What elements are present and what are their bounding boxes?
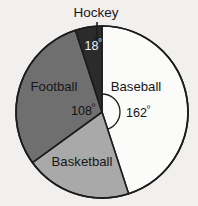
degree-symbol-icon: º: [92, 101, 95, 111]
slice-label-baseball: Baseball: [111, 79, 162, 94]
slice-label-football: Football: [31, 79, 78, 94]
angle-label-baseball: 162º: [126, 103, 150, 120]
pie-chart: Baseball162ºBasketballFootball108ºHockey…: [0, 0, 198, 206]
angle-label-football: 108º: [71, 101, 95, 118]
slice-label-hockey: Hockey: [73, 5, 118, 20]
pie-chart-canvas: Baseball162ºBasketballFootball108ºHockey…: [0, 0, 198, 206]
pie-slices-group: [16, 26, 188, 198]
slice-label-basketball: Basketball: [52, 154, 113, 169]
degree-symbol-icon: º: [147, 103, 150, 113]
degree-symbol-icon: º: [98, 36, 101, 46]
